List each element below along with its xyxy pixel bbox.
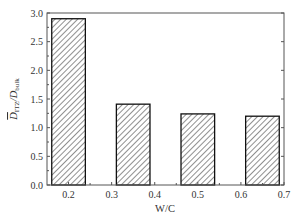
y-tick-label: 2.0 <box>31 65 44 76</box>
y-tick-label: 3.0 <box>31 8 44 19</box>
x-tick-label: 0.4 <box>148 189 161 200</box>
x-tick-label: 0.5 <box>192 189 205 200</box>
y-label-denominator-sub: bulk <box>13 78 21 91</box>
y-tick-label: 1.0 <box>31 122 44 133</box>
x-axis-label: W/C <box>155 203 175 214</box>
y-axis-label: DITZ/Dbulk <box>8 78 21 121</box>
y-label-numerator-sub: ITZ <box>13 101 21 112</box>
y-tick-label: 2.5 <box>31 36 44 47</box>
x-tick-label: 0.6 <box>235 189 248 200</box>
y-tick-label: 0.5 <box>31 151 44 162</box>
bar-chart: 0.00.51.01.52.02.53.0 0.20.30.40.50.60.7… <box>0 0 299 222</box>
y-tick-label: 0.0 <box>31 180 44 191</box>
svg-text:DITZ/Dbulk: DITZ/Dbulk <box>8 78 21 121</box>
bar <box>116 104 150 185</box>
bar <box>246 116 280 185</box>
x-tick-label: 0.7 <box>278 189 291 200</box>
x-tick-label: 0.2 <box>62 189 75 200</box>
bar <box>181 114 215 185</box>
x-tick-label: 0.3 <box>105 189 118 200</box>
bar <box>52 19 86 185</box>
y-tick-label: 1.5 <box>31 94 44 105</box>
bars-group <box>52 19 280 185</box>
